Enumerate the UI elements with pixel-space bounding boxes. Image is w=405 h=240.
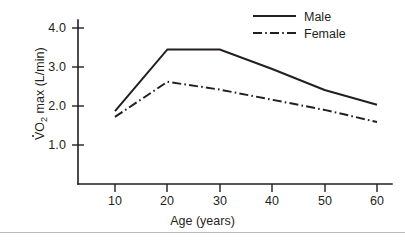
v-dot-accent: V	[33, 132, 47, 140]
x-tick-label-30: 30	[205, 194, 235, 208]
y-tick-label-1: 1.0	[38, 138, 66, 152]
x-tick-label-20: 20	[152, 194, 182, 208]
bottom-divider	[0, 232, 405, 233]
y-axis-title-subscript: 2	[39, 117, 49, 122]
y-axis-title: VO2 max (L/min)	[33, 47, 47, 140]
series-line-male	[115, 49, 377, 111]
x-tick-label-60: 60	[362, 194, 392, 208]
legend-swatches	[253, 16, 296, 33]
y-axis-title-rest: max (L/min)	[33, 47, 47, 116]
x-tick-marks	[115, 184, 377, 192]
chart-figure: 4.0 3.0 2.0 1.0 10 20 30 40 50 60 VO2 ma…	[0, 0, 405, 240]
x-tick-label-10: 10	[100, 194, 130, 208]
axes-group	[78, 20, 392, 184]
y-tick-label-4: 4.0	[38, 21, 66, 35]
legend-label-male: Male	[304, 10, 331, 24]
x-tick-label-50: 50	[310, 194, 340, 208]
legend-label-female: Female	[304, 27, 346, 41]
y-axis-title-o: O	[33, 122, 47, 132]
x-axis-title: Age (years)	[0, 214, 405, 228]
x-tick-label-40: 40	[257, 194, 287, 208]
series-line-female	[115, 82, 377, 122]
